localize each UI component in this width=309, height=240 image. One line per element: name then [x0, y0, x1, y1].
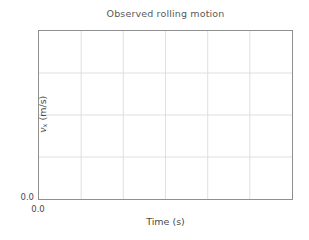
- x-tick-label-0: 0.0: [24, 204, 52, 214]
- x-axis-label: Time (s): [38, 216, 293, 227]
- y-tick-label-0: 0.0: [18, 192, 34, 202]
- grid-lines: [39, 31, 292, 199]
- y-axis-label-subscript: x: [41, 124, 49, 128]
- plot-area: [38, 30, 293, 200]
- chart-title: Observed rolling motion: [38, 8, 293, 19]
- chart-figure: Observed rolling motion 0.0 0.0 Time (s)…: [0, 0, 309, 240]
- y-axis-label-variable: v: [37, 127, 48, 132]
- y-axis-label-units: (m/s): [37, 96, 48, 124]
- y-axis-label: vx (m/s): [37, 29, 49, 199]
